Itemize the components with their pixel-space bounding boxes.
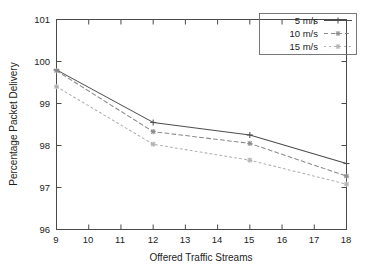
- line-chart: 101 100 99 98 97 96 9 10 11 12 13 14 15 …: [0, 0, 368, 275]
- series-2: [54, 84, 349, 187]
- x-tick-label: 9: [53, 234, 58, 245]
- x-tick-label: 17: [309, 234, 320, 245]
- legend-label-0: 5 m/s: [295, 15, 318, 26]
- y-tick-label: 98: [39, 140, 50, 151]
- series-0: [54, 67, 350, 167]
- legend-label-1: 10 m/s: [289, 28, 318, 39]
- x-axis-title: Offered Traffic Streams: [149, 252, 252, 263]
- legend-label-2: 15 m/s: [289, 41, 318, 52]
- y-tick-label: 101: [34, 14, 50, 25]
- series-1: [54, 68, 349, 179]
- x-tick-label: 15: [244, 234, 255, 245]
- x-tick-label: 13: [180, 234, 191, 245]
- y-tick-label: 100: [34, 56, 50, 67]
- y-tick-label: 99: [39, 98, 50, 109]
- legend-line-samples: [324, 18, 352, 50]
- series-layer: [54, 67, 350, 187]
- x-axis-tick-labels: 9 10 11 12 13 14 15 16 17 18: [53, 234, 351, 245]
- y-axis-title: Percentage Packet Delivery: [8, 62, 19, 185]
- x-tick-label: 16: [277, 234, 288, 245]
- y-axis-tick-labels: 101 100 99 98 97 96: [34, 14, 50, 235]
- chart-figure: 101 100 99 98 97 96 9 10 11 12 13 14 15 …: [0, 0, 368, 275]
- x-tick-label: 11: [115, 234, 125, 245]
- y-tick-label: 96: [39, 224, 50, 235]
- x-tick-label: 14: [212, 234, 223, 245]
- x-tick-label: 12: [148, 234, 159, 245]
- x-tick-label: 18: [341, 234, 352, 245]
- x-tick-label: 10: [83, 234, 94, 245]
- y-tick-label: 97: [39, 182, 50, 193]
